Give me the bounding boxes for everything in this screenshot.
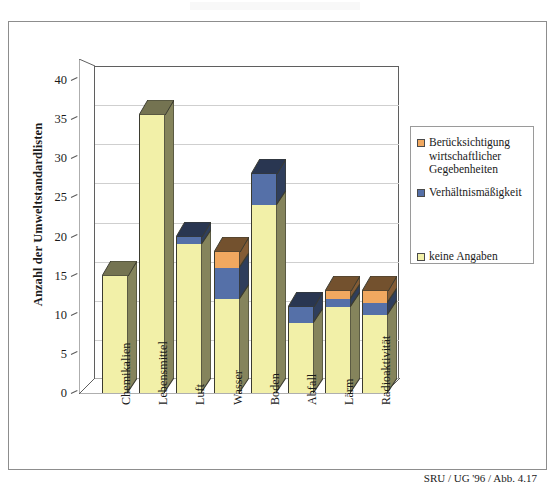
- scan-artifact: [190, 2, 360, 10]
- x-axis-label: Boden: [268, 373, 283, 405]
- bar-segment-ber-cksichtigung-wirtschaftlicher-gegebenheiten: [325, 291, 351, 299]
- bar-segment-side: [201, 229, 211, 393]
- x-axis-label: Lebensmittel: [156, 341, 171, 405]
- bar-segment-verh-ltnism-igkeit: [362, 303, 388, 315]
- legend-item: keine Angaben: [417, 250, 528, 264]
- legend-label-keine-angaben: keine Angaben: [429, 250, 498, 264]
- bar-top-face: [214, 237, 249, 252]
- bar-segment-keine-angaben: [176, 244, 202, 393]
- bar-segment-verh-ltnism-igkeit: [251, 174, 277, 205]
- x-axis-label: Wasser: [231, 370, 246, 405]
- legend-label-verhaeltnismaessigkeit: Verhältnismäßigkeit: [429, 186, 522, 200]
- bar-top-face: [102, 261, 137, 276]
- bar-top-face: [139, 100, 174, 115]
- figure-frame: 4035302520151050 Anzahl der Umweltstanda…: [8, 21, 547, 470]
- bar-segment-verh-ltnism-igkeit: [325, 299, 351, 307]
- x-axis-label: Radioaktivität: [379, 336, 394, 405]
- bar-top-face: [288, 292, 323, 307]
- bar-top-face: [251, 159, 286, 174]
- legend-swatch-wirtschaftliche-gegebenheiten: [417, 139, 425, 147]
- legend-label-wirtschaftliche-gegebenheiten: Berücksichtigung wirtschaftlicher Gegebe…: [429, 136, 528, 177]
- legend-swatch-keine-angaben: [417, 253, 425, 261]
- x-axis-label: Chemikalien: [119, 343, 134, 405]
- bar-segment-verh-ltnism-igkeit: [288, 307, 314, 323]
- bar-segment-side: [276, 190, 286, 393]
- legend-swatch-verhaeltnismaessigkeit: [417, 189, 425, 197]
- x-axis-label: Abfall: [305, 374, 320, 405]
- bar-segment-verh-ltnism-igkeit: [214, 268, 240, 299]
- bar-segment-verh-ltnism-igkeit: [176, 237, 202, 245]
- legend-item: Verhältnismäßigkeit: [417, 186, 528, 200]
- x-axis-label: Luft: [193, 384, 208, 405]
- bar-segment-ber-cksichtigung-wirtschaftlicher-gegebenheiten: [214, 252, 240, 268]
- bar-segment-keine-angaben: [251, 205, 277, 393]
- x-axis-label: Lärm: [342, 379, 357, 405]
- bar-top-face: [325, 276, 360, 291]
- legend-item: Berücksichtigung wirtschaftlicher Gegebe…: [417, 136, 528, 177]
- chart-legend: Berücksichtigung wirtschaftlicher Gegebe…: [410, 126, 534, 264]
- bar-segment-ber-cksichtigung-wirtschaftlicher-gegebenheiten: [362, 291, 388, 303]
- bar-top-face: [176, 222, 211, 237]
- figure-caption: SRU / UG '96 / Abb. 4.17: [409, 472, 537, 484]
- bar-top-face: [362, 276, 397, 291]
